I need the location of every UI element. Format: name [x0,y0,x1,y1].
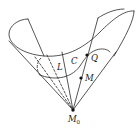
label-M: M [84,73,94,83]
label-M0-subscript: 0 [77,119,81,125]
label-Q: Q [91,53,98,63]
label-L: L [56,62,63,72]
label-M0: M [67,114,77,124]
surface-top-edge [9,11,134,56]
cone-diagram: L C Q M M 0 [0,0,140,129]
surface-top-inner-edge [98,9,124,18]
label-C: C [71,56,78,66]
generator-hidden-1 [35,57,73,110]
surface-left-back-edge [28,19,44,56]
point-M0 [71,108,74,111]
point-Q [85,53,88,56]
point-M [79,76,82,79]
